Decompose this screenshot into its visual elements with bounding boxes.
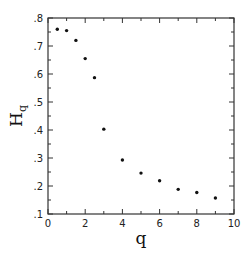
plot-frame <box>48 18 234 214</box>
scatter-chart: 0246810 .1.2.3.4.5.6.7.8 q Hq <box>0 0 250 258</box>
x-tick-label: 6 <box>156 218 162 229</box>
plot-border <box>48 18 234 214</box>
axis-ticks <box>48 18 234 214</box>
data-points <box>56 28 218 200</box>
y-tick-label: .6 <box>33 69 43 80</box>
data-point <box>214 196 217 199</box>
y-axis-label-subscript: q <box>16 105 29 112</box>
y-tick-label: .5 <box>33 97 43 108</box>
y-tick-label: .4 <box>33 125 43 136</box>
y-tick-label: .8 <box>33 13 43 24</box>
data-point <box>84 57 87 60</box>
x-tick-label: 10 <box>228 218 241 229</box>
y-axis-label: Hq <box>6 105 29 127</box>
data-point <box>65 29 68 32</box>
y-tick-label: .1 <box>33 209 43 220</box>
data-point <box>74 39 77 42</box>
data-point <box>139 171 142 174</box>
y-tick-labels: .1.2.3.4.5.6.7.8 <box>33 13 43 220</box>
x-axis-label: q <box>136 228 147 248</box>
x-tick-label: 0 <box>45 218 51 229</box>
data-point <box>195 191 198 194</box>
data-point <box>93 76 96 79</box>
data-point <box>158 179 161 182</box>
data-point <box>56 28 59 31</box>
svg-text:Hq: Hq <box>6 105 29 127</box>
data-point <box>177 188 180 191</box>
y-tick-label: .7 <box>33 41 43 52</box>
y-axis-label-main: H <box>6 112 26 127</box>
x-tick-label: 8 <box>194 218 200 229</box>
x-tick-label: 4 <box>119 218 125 229</box>
data-point <box>121 158 124 161</box>
data-point <box>102 127 105 130</box>
y-tick-label: .3 <box>33 153 43 164</box>
x-tick-label: 2 <box>82 218 88 229</box>
y-tick-label: .2 <box>33 181 43 192</box>
